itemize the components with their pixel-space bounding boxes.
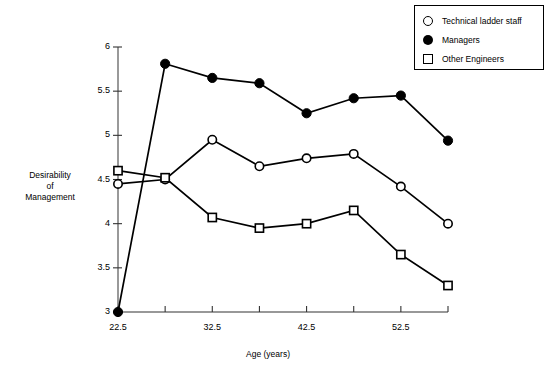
y-axis-tick-label: 3.5 [84, 262, 110, 272]
open-square-marker-icon [208, 213, 216, 221]
legend-item-technical-ladder-staff: Technical ladder staff [422, 13, 522, 29]
x-axis-tick-label: 22.5 [98, 322, 138, 332]
y-axis-tick-label: 5.5 [84, 85, 110, 95]
open-circle-marker-icon [255, 162, 263, 170]
filled-circle-marker-icon [443, 136, 452, 145]
filled-circle-marker-icon [396, 91, 405, 100]
y-axis-tick-label: 4.5 [84, 174, 110, 184]
open-circle-marker-icon [302, 154, 310, 162]
open-square-marker-icon [397, 250, 405, 258]
open-circle-marker-icon [444, 219, 452, 227]
chart-figure: DesirabilityofManagement Age (years) 33.… [0, 0, 549, 377]
legend-item-label: Technical ladder staff [442, 16, 522, 26]
y-axis-tick-label: 4 [84, 218, 110, 228]
legend-item-label: Managers [442, 35, 480, 45]
filled-circle-marker-icon [208, 73, 217, 82]
y-axis-tick-label: 5 [84, 129, 110, 139]
open-circle-marker-icon [350, 150, 358, 158]
x-axis-tick-label: 42.5 [287, 322, 327, 332]
filled-circle-marker-icon [113, 307, 122, 316]
open-circle-marker-icon [422, 15, 434, 27]
open-square-marker-icon [350, 206, 358, 214]
open-square-marker-icon [161, 174, 169, 182]
y-axis-label-line: Desirability [10, 170, 90, 181]
y-axis-label: DesirabilityofManagement [10, 170, 90, 203]
open-circle-marker-icon [208, 136, 216, 144]
filled-circle-marker-icon [255, 79, 264, 88]
y-axis-label-line: of [10, 181, 90, 192]
x-axis-label: Age (years) [188, 349, 348, 360]
legend-item-other-engineers: Other Engineers [422, 51, 504, 67]
chart-series-group [113, 59, 452, 316]
filled-circle-marker-icon [349, 94, 358, 103]
open-square-marker-icon [444, 281, 452, 289]
legend-item-managers: Managers [422, 32, 480, 48]
open-square-marker-icon [114, 167, 122, 175]
open-circle-marker-icon [397, 182, 405, 190]
open-square-marker-icon [255, 224, 263, 232]
chart-legend: Technical ladder staff Managers Other En… [414, 5, 544, 70]
legend-item-label: Other Engineers [442, 54, 504, 64]
x-axis-tick-label: 52.5 [381, 322, 421, 332]
y-axis-tick-label: 3 [84, 306, 110, 316]
filled-circle-marker-icon [302, 109, 311, 118]
open-circle-marker-icon [114, 180, 122, 188]
open-square-marker-icon [422, 53, 434, 65]
open-square-marker-icon [302, 220, 310, 228]
y-axis-label-line: Management [10, 192, 90, 203]
x-axis-tick-label: 32.5 [192, 322, 232, 332]
y-axis-tick-label: 6 [84, 41, 110, 51]
filled-circle-marker-icon [422, 34, 434, 46]
filled-circle-marker-icon [161, 59, 170, 68]
